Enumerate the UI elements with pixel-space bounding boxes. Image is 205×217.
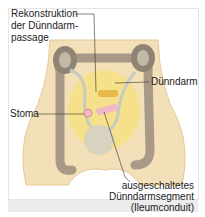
label-reconstruction-line3: passage — [11, 32, 78, 44]
label-excluded-segment: ausgeschaltetes Dünndarmsegment (Ileumco… — [109, 180, 194, 213]
label-segment-line1: ausgeschaltetes — [109, 180, 194, 191]
label-reconstruction: Rekonstruktion der Dünndarm- passage — [11, 8, 78, 44]
label-stoma: Stoma — [10, 108, 39, 120]
stoma — [84, 109, 92, 117]
label-segment-line3: (Ileumconduit) — [109, 202, 194, 213]
label-small-intestine: Dünndarm — [151, 76, 198, 88]
label-reconstruction-line1: Rekonstruktion — [11, 8, 78, 20]
label-segment-line2: Dünndarmsegment — [109, 191, 194, 202]
anastomosis — [98, 90, 118, 97]
label-reconstruction-line2: der Dünndarm- — [11, 20, 78, 32]
